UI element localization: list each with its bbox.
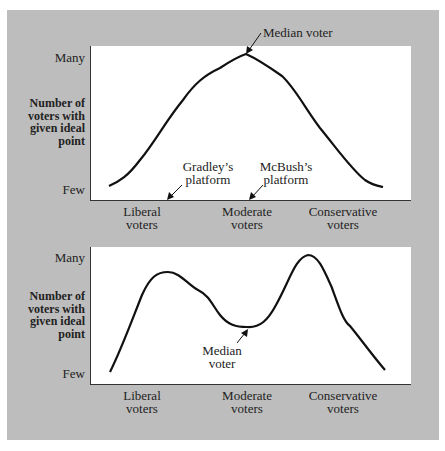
bottom-x-tick-liberal: Liberal voters [92, 389, 192, 415]
bottom-y-axis-label: Number of voters with given ideal point [5, 290, 85, 340]
bottom-y-tick-few: Few [25, 366, 85, 382]
bottom-median-voter-label: Median voter [172, 344, 272, 370]
bottom-curve [0, 0, 445, 451]
bottom-x-tick-conservative: Conservative voters [293, 389, 393, 415]
bottom-x-tick-moderate: Moderate voters [197, 389, 297, 415]
bottom-y-tick-many: Many [25, 250, 85, 266]
